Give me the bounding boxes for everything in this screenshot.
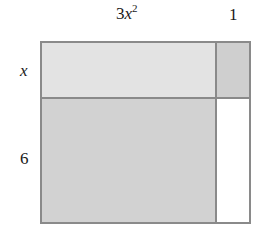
area-model-rectangle <box>40 41 251 224</box>
column-label-1: 1 <box>229 6 238 23</box>
row-label-x: x <box>20 62 28 79</box>
horizontal-divider <box>42 97 249 99</box>
cell-bottom-left <box>42 99 215 222</box>
variable: x <box>20 61 28 80</box>
coefficient: 3 <box>116 4 125 23</box>
row-label-6: 6 <box>20 150 29 167</box>
exponent: 2 <box>132 2 138 14</box>
cell-bottom-right <box>217 99 249 222</box>
vertical-divider <box>215 43 217 222</box>
cell-top-left <box>42 43 215 97</box>
variable: x <box>125 4 133 23</box>
cell-top-right <box>217 43 249 97</box>
column-label-3x-squared: 3x2 <box>116 5 138 22</box>
